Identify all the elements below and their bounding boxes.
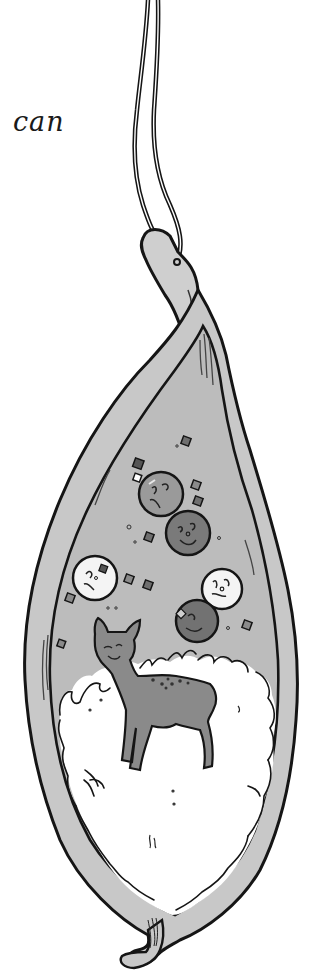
face-circle-1 [139, 472, 183, 516]
face-circle-5 [176, 600, 218, 642]
strings [135, 0, 181, 262]
seed-pod-illustration [0, 0, 325, 972]
face-circle-2 [166, 511, 210, 555]
face-circle-3 [73, 556, 117, 600]
